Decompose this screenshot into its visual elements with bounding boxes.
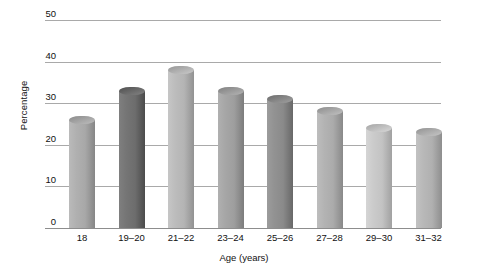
x-tick-label-21-22: 21–22 — [157, 232, 205, 243]
x-tick-label-23-24: 23–24 — [207, 232, 255, 243]
bar-body — [218, 91, 244, 228]
y-tick-label-30: 30 — [0, 92, 56, 102]
bar-body — [416, 132, 442, 228]
bar-body — [317, 111, 343, 228]
bar-body — [69, 120, 95, 228]
x-axis-title: Age (years) — [0, 252, 488, 263]
bar-29-30[interactable] — [366, 124, 392, 228]
bar-body — [168, 70, 194, 228]
bar-23-24[interactable] — [218, 87, 244, 228]
bar-top-cap — [416, 128, 442, 136]
x-tick-label-31-32: 31–32 — [405, 232, 453, 243]
bar-body — [366, 128, 392, 228]
bar-18[interactable] — [69, 116, 95, 228]
x-tick-label-29-30: 29–30 — [355, 232, 403, 243]
bar-top-cap — [366, 124, 392, 132]
x-tick-label-19-20: 19–20 — [108, 232, 156, 243]
x-tick-label-18: 18 — [58, 232, 106, 243]
bar-27-28[interactable] — [317, 107, 343, 228]
bar-top-cap — [168, 66, 194, 74]
bar-top-cap — [119, 87, 145, 95]
y-tick-label-40: 40 — [0, 51, 56, 61]
gridline-40 — [45, 62, 441, 63]
x-axis-baseline — [45, 228, 441, 229]
x-tick-label-25-26: 25–26 — [256, 232, 304, 243]
bar-body — [267, 99, 293, 228]
bar-31-32[interactable] — [416, 128, 442, 228]
bar-top-cap — [317, 107, 343, 115]
gridline-50 — [45, 20, 441, 21]
bar-top-cap — [267, 95, 293, 103]
bar-top-cap — [218, 87, 244, 95]
bar-25-26[interactable] — [267, 95, 293, 228]
bar-top-cap — [69, 116, 95, 124]
bar-19-20[interactable] — [119, 87, 145, 228]
bar-chart: Percentage 01020304050 1819–2021–2223–24… — [0, 0, 488, 279]
x-tick-label-27-28: 27–28 — [306, 232, 354, 243]
y-tick-label-10: 10 — [0, 175, 56, 185]
bar-21-22[interactable] — [168, 66, 194, 228]
y-tick-label-0: 0 — [0, 217, 56, 227]
y-tick-label-20: 20 — [0, 134, 56, 144]
bar-body — [119, 91, 145, 228]
y-tick-label-50: 50 — [0, 9, 56, 19]
